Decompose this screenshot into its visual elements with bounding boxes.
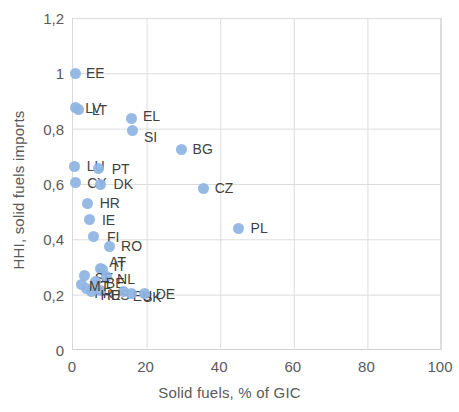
x-tick-label: 100	[427, 358, 452, 375]
data-point[interactable]	[127, 125, 138, 136]
y-tick-label: 0,4	[4, 231, 64, 248]
data-point[interactable]	[95, 179, 106, 190]
data-point[interactable]	[104, 241, 115, 252]
x-tick-label: 60	[284, 358, 301, 375]
data-point-label: BG	[193, 141, 213, 157]
data-point[interactable]	[70, 177, 81, 188]
plot-area: EELVLTELSIBGLUPTCYDKCZHRIEPLFIROATITSENL…	[72, 18, 440, 350]
x-tick-label: 0	[68, 358, 76, 375]
data-point-label: RO	[121, 238, 142, 254]
data-point-label: PT	[112, 161, 130, 177]
x-axis-title: Solid fuels, % of GIC	[0, 384, 459, 401]
data-point-label: SI	[144, 129, 157, 145]
y-tick-label: 1	[4, 65, 64, 82]
data-point[interactable]	[82, 198, 93, 209]
data-point[interactable]	[176, 144, 187, 155]
data-point-label: CZ	[215, 180, 234, 196]
scatter-chart: HHI, solid fuels imports Solid fuels, % …	[0, 0, 459, 412]
x-tick-label: 40	[211, 358, 228, 375]
y-tick-label: 1,2	[4, 10, 64, 27]
data-point-label: DE	[156, 286, 175, 302]
data-point-label: EE	[86, 65, 105, 81]
data-point-label: HR	[100, 195, 120, 211]
x-tick-label: 20	[137, 358, 154, 375]
data-point-label: MT	[89, 278, 109, 294]
y-tick-label: 0,8	[4, 120, 64, 137]
data-point[interactable]	[69, 161, 80, 172]
y-tick-label: 0,2	[4, 286, 64, 303]
x-tick-label: 80	[358, 358, 375, 375]
data-point[interactable]	[198, 183, 209, 194]
data-point-label: EL	[143, 108, 160, 124]
data-point-label: PL	[251, 220, 268, 236]
data-point[interactable]	[139, 288, 150, 299]
data-point[interactable]	[233, 223, 244, 234]
data-point-label: DK	[114, 176, 133, 192]
data-point-label: LT	[92, 102, 107, 118]
data-point[interactable]	[76, 279, 87, 290]
y-tick-label: 0	[4, 342, 64, 359]
data-point-label: IE	[102, 212, 115, 228]
y-tick-label: 0,6	[4, 176, 64, 193]
